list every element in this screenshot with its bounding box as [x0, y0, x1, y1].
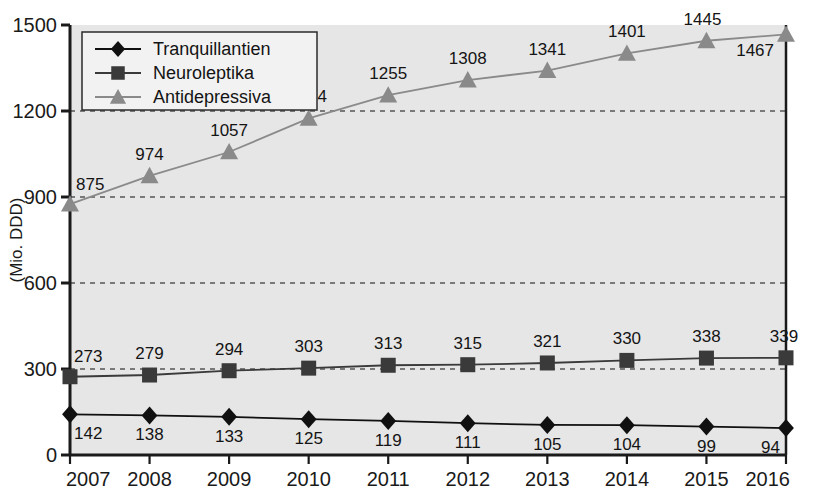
data-point-label: 279: [135, 344, 163, 363]
y-tick-label: 900: [24, 186, 57, 208]
y-tick-label: 1200: [13, 100, 58, 122]
legend-item-label: Antidepressiva: [153, 87, 272, 107]
y-tick-label: 0: [46, 444, 57, 466]
data-point-label: 94: [761, 438, 780, 457]
square-icon: [142, 368, 157, 383]
x-tick-label: 2011: [367, 468, 410, 490]
data-point-label: 1255: [369, 64, 407, 83]
data-point-label: 1057: [210, 121, 248, 140]
x-tick-label: 2015: [684, 468, 729, 490]
square-icon: [222, 363, 237, 378]
data-point-label: 339: [770, 327, 798, 346]
square-icon: [779, 350, 794, 365]
data-point-label: 313: [374, 334, 402, 353]
x-tick-label: 2014: [605, 468, 650, 490]
square-icon: [381, 358, 396, 373]
data-point-label: 125: [294, 429, 322, 448]
data-point-label: 974: [135, 145, 163, 164]
x-tick-label: 2012: [446, 468, 491, 490]
square-icon: [540, 355, 555, 370]
data-point-label: 111: [455, 433, 481, 452]
data-point-label: 321: [533, 332, 561, 351]
x-tick-label: 2010: [286, 468, 331, 490]
line-chart: 030060090012001500 200720082009201020112…: [0, 0, 818, 494]
square-icon: [301, 361, 316, 376]
y-axis-title: (Mio. DDD): [7, 198, 26, 283]
data-point-label: 338: [692, 327, 720, 346]
square-icon: [460, 357, 475, 372]
y-tick-label: 1500: [13, 14, 58, 36]
x-tick-label: 2013: [525, 468, 570, 490]
data-point-label: 105: [533, 435, 561, 454]
data-point-label: 142: [74, 424, 102, 443]
legend-item-label: Tranquillantien: [153, 39, 270, 59]
data-point-label: 1308: [449, 49, 487, 68]
square-icon: [619, 353, 634, 368]
data-point-label: 119: [375, 431, 402, 450]
legend-item-label: Neuroleptika: [153, 63, 255, 83]
square-icon: [63, 369, 78, 384]
data-point-label: 1467: [736, 41, 774, 60]
data-point-label: 138: [135, 425, 163, 444]
x-tick-label: 2016: [746, 468, 791, 490]
data-point-label: 1341: [528, 40, 566, 59]
y-tick-label: 300: [24, 358, 57, 380]
chart-container: 030060090012001500 200720082009201020112…: [0, 0, 818, 494]
data-point-label: 99: [697, 437, 716, 456]
square-icon: [111, 66, 125, 80]
data-point-label: 330: [613, 329, 641, 348]
data-point-label: 315: [454, 334, 482, 353]
data-point-label: 133: [215, 427, 243, 446]
data-point-label: 303: [294, 337, 322, 356]
x-tick-label: 2009: [207, 468, 252, 490]
data-point-label: 875: [76, 175, 104, 194]
square-icon: [699, 351, 714, 366]
legend: TranquillantienNeuroleptikaAntidepressiv…: [82, 32, 317, 110]
data-point-label: 1401: [608, 22, 646, 41]
data-point-label: 104: [613, 435, 641, 454]
x-tick-label: 2008: [127, 468, 172, 490]
data-point-label: 1445: [684, 10, 722, 29]
x-tick-label: 2007: [66, 468, 111, 490]
data-point-label: 273: [74, 347, 102, 366]
y-tick-label: 600: [24, 272, 57, 294]
data-point-label: 294: [215, 340, 243, 359]
